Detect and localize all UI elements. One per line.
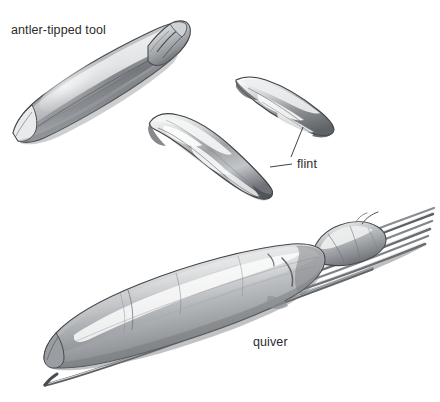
flint-blade-upper-right-object <box>236 77 334 137</box>
quiver-object <box>44 208 434 385</box>
flint-upper-body <box>236 77 334 136</box>
illustration-figure: antler-tipped tool flint quiver <box>0 0 440 402</box>
illustration-canvas <box>0 0 440 402</box>
antler-tool-tip <box>13 105 37 142</box>
quiver-cap-tie-2 <box>356 213 367 222</box>
leader-line-to-middle-flint <box>270 164 292 167</box>
label-quiver: quiver <box>253 336 288 349</box>
flint-blade-middle-object <box>148 114 273 200</box>
label-antler-tipped-tool: antler-tipped tool <box>11 24 106 37</box>
leader-line-to-upper-flint <box>291 127 303 157</box>
label-flint: flint <box>297 158 317 171</box>
